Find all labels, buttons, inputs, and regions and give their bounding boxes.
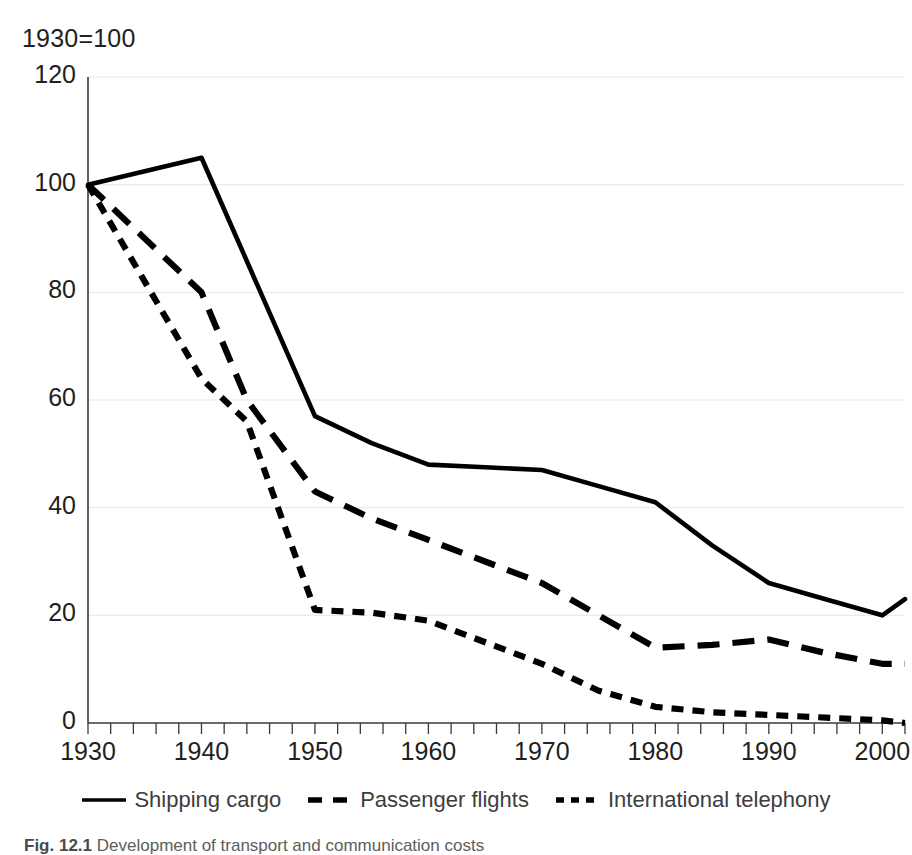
x-tick-label: 1930 (33, 737, 143, 766)
y-tick-label: 20 (6, 598, 76, 627)
long-dash-line-marker (307, 793, 353, 807)
x-minor-ticks-group (88, 723, 905, 734)
chart-svg (0, 60, 912, 750)
legend-item-1[interactable]: Shipping cargo (81, 787, 281, 813)
figure-container: 1930=100 020406080100120 193019401950196… (0, 0, 912, 855)
legend-item-3[interactable]: International telephony (555, 787, 831, 813)
y-tick-label: 40 (6, 491, 76, 520)
y-tick-label: 80 (6, 275, 76, 304)
x-tick-label: 1940 (146, 737, 256, 766)
plot-area: 020406080100120 193019401950196019701980… (0, 60, 912, 750)
y-tick-label: 120 (6, 60, 76, 89)
chart-index-note: 1930=100 (22, 24, 136, 53)
x-tick-label: 2000 (827, 737, 912, 766)
legend-label: Passenger flights (360, 787, 529, 813)
x-tick-label: 1980 (600, 737, 710, 766)
figure-caption-text: Development of transport and communicati… (97, 836, 484, 855)
x-tick-label: 1990 (714, 737, 824, 766)
data-series-group (88, 158, 905, 723)
x-tick-label: 1970 (487, 737, 597, 766)
y-tick-label: 60 (6, 383, 76, 412)
short-dash-line-marker (555, 793, 601, 807)
x-tick-label: 1960 (373, 737, 483, 766)
series-line-2 (88, 185, 905, 664)
legend-label: Shipping cargo (134, 787, 281, 813)
figure-caption: Fig. 12.1 Development of transport and c… (24, 836, 894, 855)
legend-item-2[interactable]: Passenger flights (307, 787, 529, 813)
solid-line-marker (81, 793, 127, 807)
chart-legend: Shipping cargoPassenger flightsInternati… (0, 782, 912, 818)
y-tick-label: 100 (6, 168, 76, 197)
y-tick-label: 0 (6, 706, 76, 735)
gridlines-group (88, 77, 905, 615)
legend-label: International telephony (608, 787, 831, 813)
figure-number: Fig. 12.1 (24, 836, 92, 855)
x-tick-label: 1950 (260, 737, 370, 766)
